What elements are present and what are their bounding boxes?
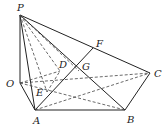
label-D: D (58, 59, 67, 70)
edge-OC (20, 73, 150, 83)
pyramid-diagram: P O A B C D E F G (0, 0, 168, 132)
label-B: B (126, 114, 134, 125)
label-O: O (6, 78, 14, 89)
label-E: E (35, 87, 44, 98)
label-G: G (82, 61, 90, 72)
label-P: P (16, 2, 24, 13)
label-F: F (95, 38, 104, 49)
label-C: C (154, 68, 162, 79)
edge-PG (20, 15, 79, 71)
label-A: A (32, 115, 40, 126)
edge-BC (125, 73, 150, 110)
